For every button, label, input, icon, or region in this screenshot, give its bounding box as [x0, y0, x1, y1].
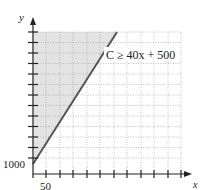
inequality-graph: y x 1000 50 C ≥ 40x + 500 [0, 0, 204, 190]
y-tick-label-1000: 1000 [3, 158, 26, 170]
x-tick-label-50: 50 [40, 180, 52, 190]
y-axis-label: y [18, 11, 24, 23]
y-axis-arrow-icon [30, 17, 36, 25]
x-axis-label: x [192, 179, 198, 190]
x-axis-arrow-icon [184, 171, 192, 177]
x-axis [33, 170, 192, 178]
inequality-label: C ≥ 40x + 500 [106, 48, 175, 62]
